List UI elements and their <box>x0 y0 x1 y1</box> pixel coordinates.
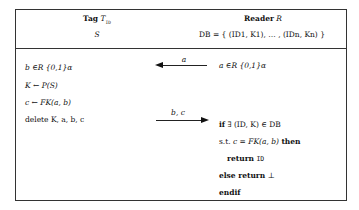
else-value: ⊥ <box>268 171 275 180</box>
if-condition: ∃ (ID, K) ∈ DB <box>227 120 280 129</box>
message-bc-label: b, c <box>171 109 185 117</box>
else-keyword: else return <box>219 171 265 180</box>
arrow-right-icon <box>201 117 209 123</box>
tag-state: S <box>94 31 99 39</box>
reader-title-symbol: R <box>276 14 282 23</box>
arrow-left-icon <box>155 62 163 68</box>
reader-db: DB = { (ID1, K1), … , (IDn, Kn) } <box>199 31 325 39</box>
tag-title-word: Tag <box>83 14 98 23</box>
tag-step-3: c ← FK(a, b) <box>25 99 71 107</box>
message-a-label: a <box>182 56 186 64</box>
message-bc-arrow-line <box>156 120 202 121</box>
reader-endif-line: endif <box>219 189 241 197</box>
return-keyword: return <box>227 154 254 163</box>
reader-st-line: s.t. c = FK(a, b) then <box>219 138 301 146</box>
reader-if-line: if ∃ (ID, K) ∈ DB <box>219 121 281 129</box>
reader-step-1: a ∈R {0,1}α <box>219 62 266 70</box>
tag-step-4: delete K, a, b, c <box>25 116 84 124</box>
tag-step-1: b ∈R {0,1}α <box>25 64 72 72</box>
reader-title-word: Reader <box>244 14 274 23</box>
if-keyword: if <box>219 120 225 129</box>
tag-title-sub: ID <box>105 20 110 25</box>
tag-step-2: K ← P(S) <box>25 82 58 90</box>
reader-return-line: return ID <box>227 155 264 163</box>
st-prefix: s.t. <box>219 137 231 146</box>
return-value: ID <box>256 155 264 163</box>
reader-else-line: else return ⊥ <box>219 172 275 180</box>
then-keyword: then <box>281 137 300 146</box>
header-divider <box>15 48 347 49</box>
tag-header: Tag TID <box>83 15 111 25</box>
reader-header: Reader R <box>244 15 282 23</box>
st-condition: c = FK(a, b) <box>233 137 279 146</box>
message-a-arrow-line <box>162 65 207 66</box>
